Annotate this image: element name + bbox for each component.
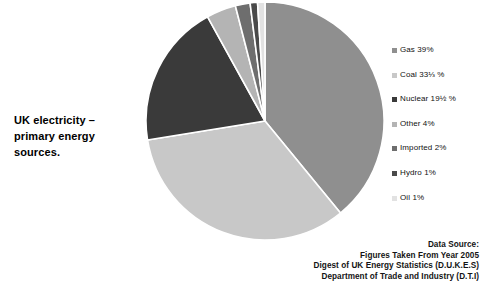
source-line-4: Department of Trade and Industry (D.T.I) [314,272,479,282]
source-line-2: Figures Taken From Year 2005 [314,251,479,261]
legend-swatch-icon [392,146,397,151]
source-heading: Data Source: [314,240,479,250]
chart-legend: Gas 39%Coal 33⅓ %Nuclear 19½ %Other 4%Im… [392,44,484,216]
source-line-3: Digest of UK Energy Statistics (D.U.K.E.… [314,261,479,271]
legend-item[interactable]: Other 4% [392,118,484,130]
legend-item-label: Imported 2% [400,143,446,153]
legend-swatch-icon [392,196,397,201]
legend-item-label: Gas 39% [400,45,434,55]
legend-swatch-icon [392,48,397,53]
legend-item[interactable]: Hydro 1% [392,167,484,179]
legend-item[interactable]: Coal 33⅓ % [392,69,484,81]
legend-item-label: Oil 1% [400,193,424,203]
title-line-3: sources. [14,144,144,160]
pie-slice-group: Gas 39%Coal 33⅓ %Nuclear 19½ %Other 4%Im… [146,2,384,240]
page-title: UK electricity – primary energy sources. [14,112,144,160]
legend-item[interactable]: Gas 39% [392,44,484,56]
title-line-2: primary energy [14,128,144,144]
legend-item[interactable]: Nuclear 19½ % [392,93,484,105]
legend-swatch-icon [392,171,397,176]
legend-item-label: Nuclear 19½ % [400,94,456,104]
legend-swatch-icon [392,73,397,78]
legend-item-label: Coal 33⅓ % [400,70,445,80]
data-source-note: Data Source: Figures Taken From Year 200… [314,240,479,282]
legend-item[interactable]: Oil 1% [392,192,484,204]
legend-item-label: Hydro 1% [400,168,436,178]
legend-swatch-icon [392,122,397,127]
pie-chart: Gas 39%Coal 33⅓ %Nuclear 19½ %Other 4%Im… [146,0,386,242]
slide-canvas: UK electricity – primary energy sources.… [0,0,485,296]
legend-item-label: Other 4% [400,119,435,129]
legend-swatch-icon [392,97,397,102]
pie-chart-svg: Gas 39%Coal 33⅓ %Nuclear 19½ %Other 4%Im… [146,0,386,242]
legend-item[interactable]: Imported 2% [392,142,484,154]
title-line-1: UK electricity – [14,112,144,128]
